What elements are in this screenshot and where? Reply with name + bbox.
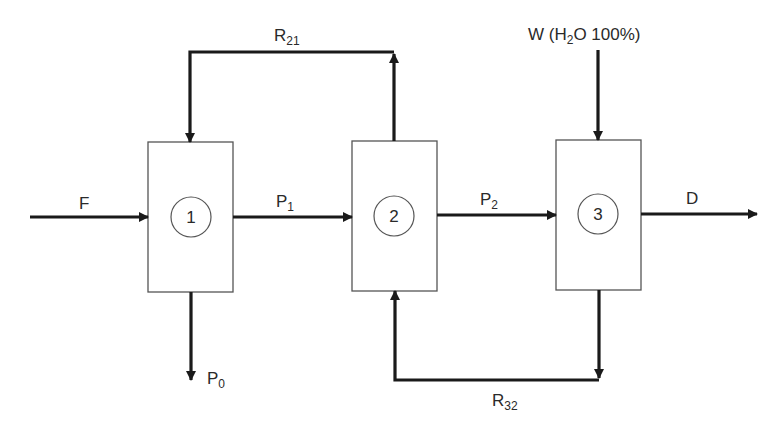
- unit-3-number: 3: [593, 205, 602, 224]
- label-p2: P2: [480, 191, 498, 208]
- stream-r21-arrow: [190, 52, 394, 142]
- label-r32: R32: [492, 392, 518, 409]
- unit-1: 1: [148, 142, 233, 292]
- unit-2-number: 2: [389, 207, 398, 226]
- unit-3: 3: [556, 140, 641, 290]
- label-p0: P0: [207, 370, 225, 387]
- label-f: F: [79, 195, 89, 212]
- unit-2: 2: [352, 141, 437, 291]
- process-flow-diagram: 1 2 3: [0, 0, 778, 424]
- stream-r32-arrow: [395, 291, 599, 380]
- label-r21: R21: [274, 27, 300, 44]
- unit-1-number: 1: [186, 208, 195, 227]
- label-d: D: [686, 190, 698, 207]
- label-p1: P1: [276, 193, 294, 210]
- label-w: W (H2O 100%): [528, 26, 641, 43]
